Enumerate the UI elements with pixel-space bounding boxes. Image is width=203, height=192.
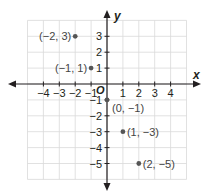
y-tick-label: 3 [96,30,102,42]
y-tick-label: −3 [89,126,102,138]
y-axis-up-arrow-icon [104,10,111,18]
x-axis-label: x [192,68,201,82]
y-tick-label: −4 [89,142,102,154]
data-point-marker [121,129,126,134]
data-point-marker [89,66,94,71]
y-tick-label: 2 [96,46,102,58]
x-tick-label: 4 [168,87,174,99]
x-tick-label: −2 [69,87,82,99]
data-point-label: (−1, 1) [55,62,87,74]
coordinate-plane: xyO −4−3−2−11234321−1−2−3−4−5 (−2, 3)(−1… [0,0,203,192]
y-axis-label: y [113,9,122,23]
data-point-label: (2, −5) [143,158,175,170]
x-tick-label: 2 [136,87,142,99]
x-tick-label: 1 [120,87,126,99]
x-tick-label: −4 [37,87,50,99]
y-tick-label: −5 [89,158,102,170]
data-point-label: (1, −3) [127,126,159,138]
y-tick-label: 1 [96,62,102,74]
data-point-marker [136,161,141,166]
y-tick-label: −1 [89,94,102,106]
x-tick-label: −3 [53,87,66,99]
x-axis-left-arrow-icon [8,81,16,88]
data-point-marker [73,34,78,39]
x-tick-label: 3 [152,87,158,99]
data-point-label: (0, −1) [112,102,144,114]
data-point-label: (−2, 3) [39,30,71,42]
data-point-marker [105,98,110,103]
y-axis-down-arrow-icon [104,183,111,191]
y-tick-label: −2 [89,110,102,122]
